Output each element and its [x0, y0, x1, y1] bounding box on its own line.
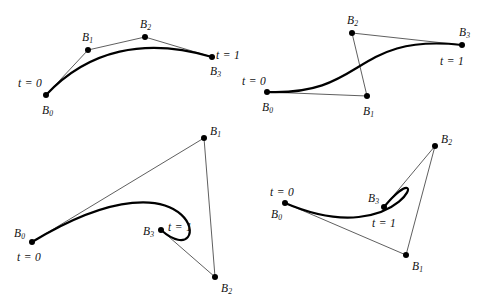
parameter-label: t = 1	[372, 218, 396, 230]
control-point-label: B3	[143, 226, 154, 239]
control-point-label: B3	[459, 27, 470, 40]
control-point-label: B1	[412, 261, 423, 274]
control-point-dot[interactable]	[142, 34, 148, 40]
control-polygon-segment	[352, 33, 367, 96]
control-point-label: B0	[271, 209, 282, 222]
control-point-dot[interactable]	[432, 143, 438, 149]
control-point-label: B0	[42, 105, 53, 118]
control-point-label: B0	[262, 102, 273, 115]
control-point-label: B3	[368, 193, 379, 206]
bezier-curve	[285, 188, 408, 218]
control-point-label: B2	[140, 19, 151, 32]
control-point-dot[interactable]	[212, 274, 218, 280]
control-point-label: B1	[82, 32, 93, 45]
control-point-dot[interactable]	[364, 93, 370, 99]
control-polygon-segment	[204, 138, 215, 277]
control-point-dot[interactable]	[209, 54, 215, 60]
control-point-label: B2	[347, 15, 358, 28]
control-point-dot[interactable]	[282, 200, 288, 206]
control-point-dot[interactable]	[403, 252, 409, 258]
control-point-dot[interactable]	[158, 227, 164, 233]
parameter-label: t = 0	[270, 187, 294, 199]
bezier-curve	[32, 202, 190, 242]
control-point-dot[interactable]	[264, 89, 270, 95]
control-point-label: B2	[221, 283, 232, 294]
parameter-label: t = 0	[18, 78, 42, 90]
control-point-label: B1	[363, 106, 374, 119]
bezier-figure-board: B0B1B2B3t = 0t = 1B0B1B2B3t = 0t = 1B0B1…	[0, 0, 491, 294]
control-polygon-segment	[406, 146, 435, 255]
control-point-dot[interactable]	[85, 47, 91, 53]
control-point-label: B3	[210, 66, 221, 79]
control-point-dot[interactable]	[459, 42, 465, 48]
parameter-label: t = 1	[168, 222, 192, 234]
control-point-dot[interactable]	[349, 30, 355, 36]
control-point-dot[interactable]	[201, 135, 207, 141]
bezier-canvas	[0, 0, 491, 294]
control-point-dot[interactable]	[381, 204, 387, 210]
control-point-label: B0	[14, 228, 25, 241]
control-point-label: B2	[441, 134, 452, 147]
parameter-label: t = 0	[17, 252, 41, 264]
control-point-label: B1	[210, 126, 221, 139]
parameter-label: t = 1	[216, 50, 240, 62]
bezier-curve	[46, 48, 212, 95]
control-point-dot[interactable]	[43, 92, 49, 98]
parameter-label: t = 1	[440, 56, 464, 68]
parameter-label: t = 0	[242, 76, 266, 88]
control-point-dot[interactable]	[29, 239, 35, 245]
